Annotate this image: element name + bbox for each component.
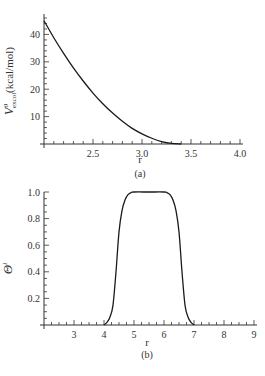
panel-a-potential-chart: 2.53.03.54.010203040 r (a) V0excol(kcal/… <box>2 14 246 180</box>
panel-a-y-axis-label: V0excol(kcal/mol) <box>2 47 18 115</box>
panel-b-caption: (b) <box>141 349 153 361</box>
panel-b-x-axis-label: r <box>145 336 149 348</box>
x-tick-label: 7 <box>192 329 197 340</box>
panel-a-curve <box>44 21 181 144</box>
y-tick-label: 40 <box>30 29 40 40</box>
y-tick-label: 0.2 <box>28 293 41 304</box>
x-tick-label: 4.0 <box>234 148 247 159</box>
x-tick-label: 2.5 <box>87 148 100 159</box>
y-tick-label: 0.4 <box>28 266 41 277</box>
y-tick-label: 20 <box>30 84 40 95</box>
x-tick-label: 3.5 <box>185 148 198 159</box>
panel-a-x-axis-label: r <box>138 153 142 165</box>
y-tick-label: 1.0 <box>28 187 41 198</box>
panel-a-axes: 2.53.03.54.010203040 <box>30 14 246 159</box>
chart-canvas: 2.53.03.54.010203040 r (a) V0excol(kcal/… <box>0 0 265 376</box>
x-tick-label: 6 <box>162 329 167 340</box>
panel-a-caption: (a) <box>134 168 145 180</box>
x-tick-label: 5 <box>132 329 137 340</box>
panel-b-y-axis-label: Θl <box>0 263 15 274</box>
figure: 2.53.03.54.010203040 r (a) V0excol(kcal/… <box>0 0 265 376</box>
y-tick-label: 0.6 <box>28 240 41 251</box>
panel-b-curve <box>104 192 194 325</box>
y-tick-label: 10 <box>30 111 40 122</box>
x-tick-label: 9 <box>252 329 257 340</box>
y-tick-label: 0.8 <box>28 213 41 224</box>
x-tick-label: 8 <box>222 329 227 340</box>
y-axis-label-text: Θl <box>0 263 15 274</box>
x-tick-label: 3 <box>72 329 77 340</box>
y-axis-label-text: V0excol(kcal/mol) <box>2 47 18 115</box>
y-tick-label: 30 <box>30 56 40 67</box>
panel-b-axes: 34567890.20.40.60.81.0 <box>28 187 258 341</box>
panel-b-theta-chart: 34567890.20.40.60.81.0 r (b) Θl <box>0 187 257 362</box>
x-tick-label: 4 <box>102 329 107 340</box>
